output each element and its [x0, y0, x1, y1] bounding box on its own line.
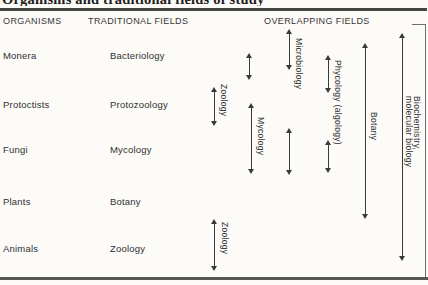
field-bacteriology: Bacteriology — [110, 50, 165, 61]
biochemistry-label: Biochemistry, molecular biology — [405, 96, 421, 167]
figure-title-cropped: Organisms and traditional fields of stud… — [0, 0, 340, 6]
biochemistry-label-line2: molecular biology — [405, 96, 413, 167]
book-figure-page: Organisms and traditional fields of stud… — [0, 0, 428, 285]
microbiology-label: Microbiology — [294, 38, 304, 89]
header-overlapping-fields: OVERLAPPING FIELDS — [264, 16, 370, 26]
botany-arrow — [362, 43, 369, 219]
zoology-upper-label: Zoology — [219, 84, 229, 116]
figure-title-text: Organisms and traditional fields of stud… — [2, 0, 264, 6]
organism-protoctists: Protoctists — [3, 99, 50, 110]
right-border-cap — [412, 24, 426, 25]
mycology-label: Mycology — [256, 117, 266, 155]
microbiology-arrow — [286, 29, 293, 70]
bottom-rule — [0, 277, 428, 280]
phycology-lower-arrow — [325, 140, 332, 173]
organism-plants: Plants — [3, 196, 31, 207]
top-rule — [0, 8, 427, 11]
phycology-upper-arrow — [325, 55, 332, 93]
organism-fungi: Fungi — [3, 144, 28, 155]
field-zoology: Zoology — [110, 243, 145, 254]
zoology-lower-arrow — [211, 219, 218, 271]
field-mycology: Mycology — [110, 144, 152, 155]
right-border — [425, 24, 426, 277]
microbiology-lower-segment-arrow — [246, 53, 253, 80]
mycology-arrow — [248, 103, 255, 174]
zoology-upper-arrow — [211, 87, 218, 126]
mycology-right-segment-arrow — [286, 128, 293, 175]
field-protozoology: Protozoology — [110, 99, 168, 110]
header-traditional-fields: TRADITIONAL FIELDS — [88, 16, 188, 26]
organism-animals: Animals — [3, 243, 38, 254]
biochemistry-label-line1: Biochemistry, — [413, 96, 421, 167]
organism-monera: Monera — [3, 50, 36, 61]
field-botany: Botany — [110, 196, 141, 207]
header-organisms: ORGANISMS — [3, 16, 62, 26]
botany-label: Botany — [369, 112, 379, 140]
zoology-lower-label: Zoology — [220, 222, 230, 254]
phycology-label: Phycology (algology) — [333, 60, 343, 145]
